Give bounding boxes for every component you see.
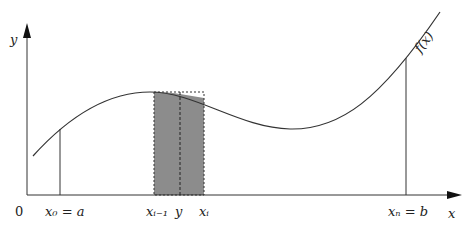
tick-label-xi-1: xᵢ₋₁ bbox=[146, 204, 168, 219]
tick-label-xn-b: xₙ = b bbox=[388, 204, 428, 219]
tick-label-y: y bbox=[174, 204, 183, 219]
function-label: f(x) bbox=[410, 29, 436, 57]
x-axis-arrow-icon bbox=[447, 191, 462, 199]
x-axis-label: x bbox=[448, 206, 456, 221]
function-curve bbox=[33, 12, 440, 156]
tick-label-x0-a: x₀ = a bbox=[45, 204, 84, 219]
y-axis-label: y bbox=[9, 32, 18, 47]
riemann-diagram: y x 0 x₀ = a xᵢ₋₁ y xᵢ xₙ = b f(x) bbox=[0, 0, 475, 232]
tick-label-xi: xᵢ bbox=[199, 204, 209, 219]
y-axis-arrow-icon bbox=[23, 23, 31, 38]
shaded-rectangle bbox=[154, 92, 204, 195]
origin-label: 0 bbox=[15, 204, 23, 219]
